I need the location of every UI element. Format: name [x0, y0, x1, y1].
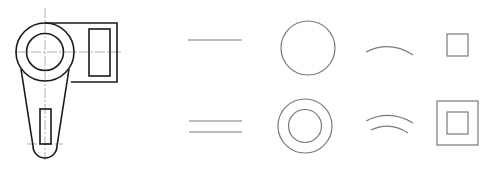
primitive-concentric-outer	[278, 99, 332, 153]
primitive-concentric-inner	[289, 110, 322, 143]
primitive-double-arc-top	[366, 115, 413, 123]
slot	[40, 109, 51, 144]
primitive-nested-square-outer	[437, 101, 478, 145]
primitive-double-arc-bottom	[371, 126, 408, 133]
primitive-arc	[366, 47, 413, 55]
primitive-circle	[281, 21, 335, 75]
block-window	[89, 29, 110, 76]
primitives-row-single	[188, 21, 468, 75]
primitives-row-double	[189, 99, 478, 153]
primitive-square	[447, 34, 468, 56]
lever-part-drawing	[15, 8, 122, 160]
side-block	[45, 23, 117, 82]
primitive-nested-square-inner	[447, 112, 468, 134]
diagram-canvas	[0, 0, 492, 169]
